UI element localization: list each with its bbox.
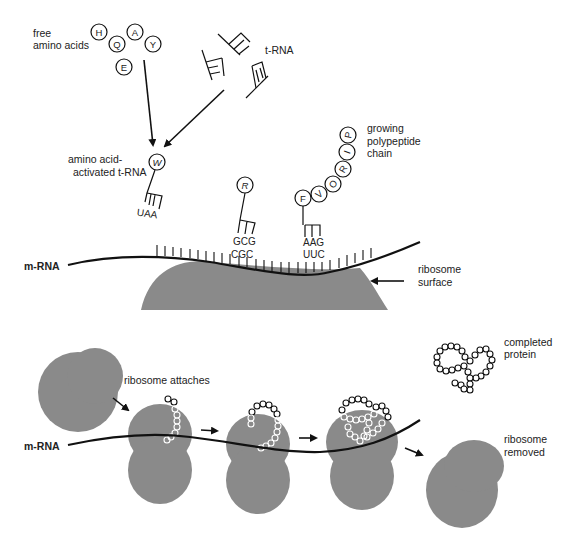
arrow-amino-acid-to-trna — [144, 60, 153, 145]
arrow-trna-to-activated — [165, 90, 224, 146]
amino-acid-q: Q — [113, 39, 120, 50]
ribosome-removed-label: ribosome — [504, 433, 547, 445]
chain-amino-acid: O — [326, 178, 339, 191]
activated-trna-icon — [145, 170, 162, 209]
ribosome-stage-1 — [128, 404, 192, 504]
activated-trna-label: amino acid- — [68, 153, 123, 165]
bound-trna-icon — [238, 193, 255, 234]
removed-ribosome — [426, 440, 504, 528]
free-trna-icons — [202, 33, 268, 98]
amino-acid-r: R — [242, 180, 249, 191]
free-ribosome — [38, 348, 123, 432]
amino-acid-y: Y — [150, 39, 157, 50]
free-amino-acids-label: free — [33, 27, 51, 39]
anticodon-uaa: UAA — [136, 207, 158, 221]
chain-amino-acid: V — [313, 187, 325, 200]
amino-acid-h: H — [96, 27, 103, 38]
arrow-stage-2 — [201, 430, 217, 431]
anticodon-aag: AAG — [303, 237, 324, 248]
protein-synthesis-diagram: free amino acids H Q A Y E t-RNA amino a… — [0, 0, 563, 548]
growing-chain-label: growing — [367, 122, 404, 134]
amino-acid-e: E — [121, 62, 127, 73]
mrna-label-bottom: m-RNA — [24, 440, 60, 452]
chain-amino-acid: P — [342, 131, 354, 139]
amino-acid-f: F — [300, 193, 306, 204]
free-amino-acids-label: amino acids — [33, 39, 89, 51]
ribosome-surface-label: ribosome — [418, 263, 461, 275]
ribosome-attaches-label: ribosome attaches — [124, 374, 210, 386]
ribosome-surface-label: surface — [418, 276, 453, 288]
trna-label: t-RNA — [265, 44, 294, 56]
chain-amino-acid: R — [337, 163, 350, 175]
codon-cgc: CGC — [231, 249, 253, 260]
ribosome-removed-label: removed — [504, 446, 545, 458]
growing-chain-label: chain — [367, 147, 392, 159]
completed-protein — [434, 343, 495, 393]
completed-protein-label: completed — [504, 336, 553, 348]
ribosome-stage-3 — [326, 410, 398, 510]
completed-protein-label: protein — [504, 348, 536, 360]
amino-acid-w: W — [153, 157, 163, 168]
mrna-label-top: m-RNA — [24, 260, 60, 272]
anticodon-gcg: GCG — [233, 236, 256, 247]
activated-trna-label: activated t-RNA — [73, 166, 147, 178]
bound-trna-icon — [303, 206, 320, 237]
ribosome-stage-2 — [226, 414, 290, 514]
arrow-ribosome-removed — [405, 448, 422, 455]
amino-acid-a: A — [132, 27, 139, 38]
growing-chain-label: polypeptide — [367, 135, 421, 147]
chain-amino-acid: I — [341, 149, 352, 155]
codon-uuc: UUC — [303, 249, 325, 260]
